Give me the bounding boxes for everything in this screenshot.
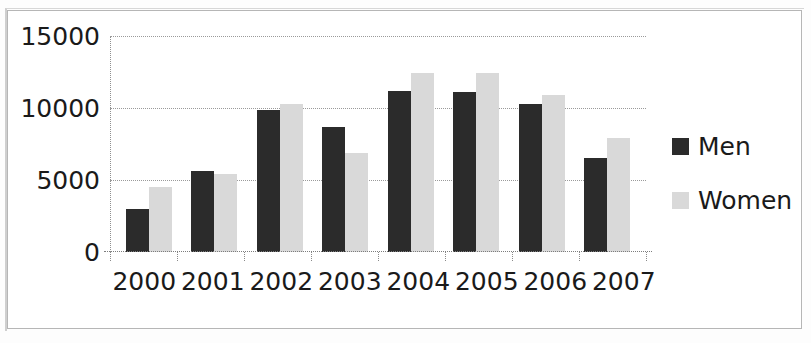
x-axis-tick-label-2000: 2000 [112,268,176,296]
bar-men-2003 [322,127,345,252]
plot-area [110,36,646,252]
bar-group-2000 [126,36,172,252]
bar-women-2003 [345,153,368,252]
y-axis-labels: 150001000050000 [0,36,100,252]
y-axis-tick-label: 10000 [0,96,100,121]
bar-groups [110,36,646,252]
x-axis-tick-label-2002: 2002 [249,268,313,296]
bar-group-2006 [519,36,565,252]
bar-men-2002 [257,110,280,252]
x-axis-tick-label-2006: 2006 [523,268,587,296]
x-axis-tickmarks [110,252,646,262]
x-axis-tickmark [445,252,446,261]
bar-men-2005 [453,92,476,252]
bar-women-2002 [280,104,303,252]
legend-item-men: Men [672,134,802,159]
y-axis-tick-label: 0 [0,240,100,265]
bar-group-2007 [584,36,630,252]
x-axis-tick-label-2005: 2005 [455,268,519,296]
screenshot-root: 150001000050000 200020012002200320042005… [0,0,811,343]
bar-women-2005 [476,73,499,252]
bar-women-2006 [542,95,565,252]
y-axis-tick-label: 15000 [0,24,100,49]
bar-men-2000 [126,209,149,252]
x-axis-tick-label-2001: 2001 [181,268,245,296]
x-axis-tick-label-2007: 2007 [592,268,656,296]
x-axis-tickmark [378,252,379,261]
legend-label: Women [698,188,792,213]
x-axis-labels: 20002001200220032004200520062007 [110,268,658,296]
x-axis-tickmark [512,252,513,261]
x-axis-tickmark [244,252,245,261]
chart-legend: MenWomen [672,134,802,242]
legend-item-women: Women [672,188,802,213]
bar-women-2001 [214,174,237,252]
x-axis-tickmark [110,252,111,261]
bar-group-2003 [322,36,368,252]
bar-women-2000 [149,187,172,252]
x-axis-tickmark [646,252,647,261]
x-axis-tickmark [177,252,178,261]
legend-label: Men [698,134,751,159]
legend-swatch-men-icon [672,138,689,155]
bar-group-2001 [191,36,237,252]
bar-chart: 150001000050000 200020012002200320042005… [0,0,811,343]
bar-women-2004 [411,73,434,252]
y-axis-tick-label: 5000 [0,168,100,193]
x-axis-tickmark [579,252,580,261]
bar-group-2005 [453,36,499,252]
x-axis-tickmark [311,252,312,261]
bar-men-2001 [191,171,214,252]
bar-men-2006 [519,104,542,252]
bar-men-2004 [388,91,411,252]
bar-group-2004 [388,36,434,252]
legend-swatch-women-icon [672,192,689,209]
x-axis-tick-label-2003: 2003 [318,268,382,296]
bar-women-2007 [607,138,630,252]
bar-men-2007 [584,158,607,252]
bar-group-2002 [257,36,303,252]
x-axis-tick-label-2004: 2004 [386,268,450,296]
